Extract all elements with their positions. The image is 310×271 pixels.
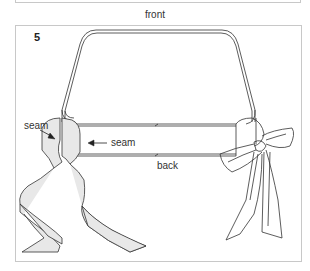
back-label: back xyxy=(157,160,178,171)
bow-tail-right-2 xyxy=(268,152,270,226)
right-corner-shoulder xyxy=(246,110,255,124)
left-ribbon-tail-a-face xyxy=(20,204,62,244)
tablecloth-outline-inner xyxy=(65,33,252,122)
seam-label-inner: seam xyxy=(111,137,135,148)
left-ribbon-fold xyxy=(62,118,80,164)
seam-label-left: seam xyxy=(24,120,48,131)
left-ribbon-tail-b-face xyxy=(82,206,146,252)
bow-right-loop xyxy=(262,128,294,148)
bow-right-loop-inner xyxy=(266,134,286,140)
tablecloth-outline-outer xyxy=(62,30,255,122)
left-corner-shoulder-2 xyxy=(65,111,74,118)
tablecloth-illustration xyxy=(0,0,310,271)
seam-arrowhead-inner xyxy=(88,140,94,146)
bow-tail-right xyxy=(262,150,282,238)
bow-tail-left xyxy=(226,152,262,240)
